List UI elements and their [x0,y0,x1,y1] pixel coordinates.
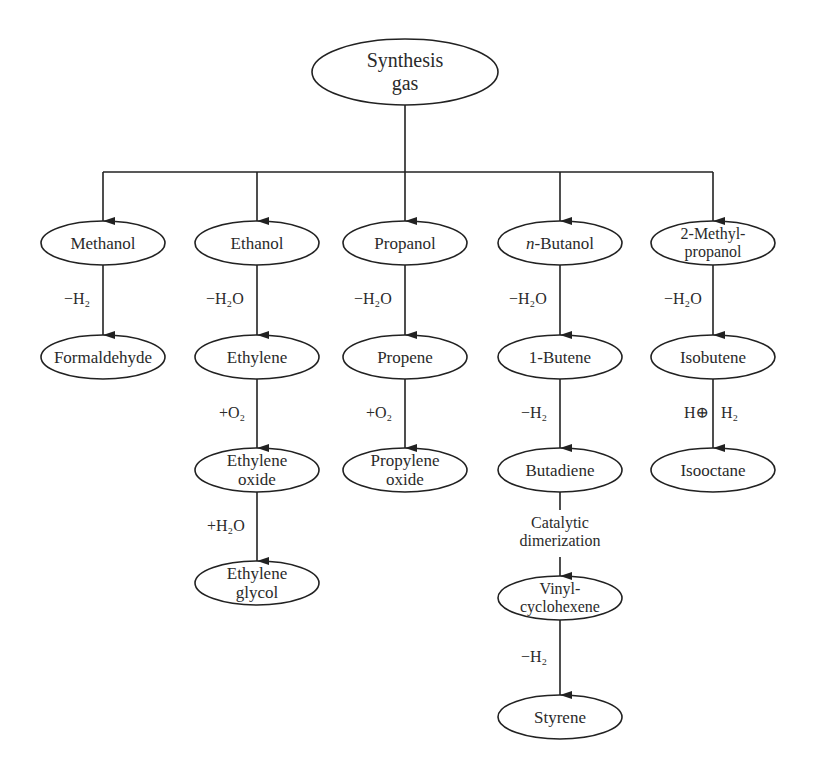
node-formaldehyde: Formaldehyde [41,335,165,379]
node-n-butanol: n-Butanol [498,221,622,265]
reagent-butanol-butene: −H₂O [509,290,547,308]
node-isobutene: Isobutene [651,335,775,379]
reagent-isobutene-acid: H⊕ [684,404,709,422]
node-ethylene-oxide: Ethylene oxide [195,448,319,492]
node-vinylcyclohexene: Vinyl- cyclohexene [498,576,622,620]
reagent-oxide-glycol: +H₂O [207,517,245,535]
reagent-methanol-formaldehyde: −H₂ [64,290,90,308]
diagram-lines [0,0,819,767]
reagent-isobutene-hydrogen: H₂ [721,404,738,422]
reagent-catalytic-dimerization: Catalytic dimerization [500,514,620,550]
node-methanol: Methanol [41,221,165,265]
node-propanol: Propanol [343,221,467,265]
reagent-propene-oxide: +O₂ [366,404,392,422]
butanol-suffix: -Butanol [535,234,595,253]
n-prefix: n [526,234,535,253]
reagent-vinylcyclohexene-styrene: −H₂ [521,648,547,666]
node-ethylene-glycol: Ethylene glycol [195,561,319,605]
node-propene: Propene [343,335,467,379]
node-propylene-oxide: Propylene oxide [343,448,467,492]
node-styrene: Styrene [498,695,622,739]
reagent-ethylene-oxide: +O₂ [219,404,245,422]
node-2-methylpropanol: 2-Methyl- propanol [651,221,775,265]
reagent-methylpropanol-isobutene: −H₂O [664,290,702,308]
node-butadiene: Butadiene [498,448,622,492]
node-isooctane: Isooctane [651,448,775,492]
node-ethylene: Ethylene [195,335,319,379]
node-synthesis-gas: Synthesis gas [312,39,498,105]
reagent-propanol-propene: −H₂O [354,290,392,308]
node-ethanol: Ethanol [195,221,319,265]
node-1-butene: 1-Butene [498,335,622,379]
reagent-ethanol-ethylene: −H₂O [206,290,244,308]
reagent-butene-butadiene: −H₂ [521,404,547,422]
